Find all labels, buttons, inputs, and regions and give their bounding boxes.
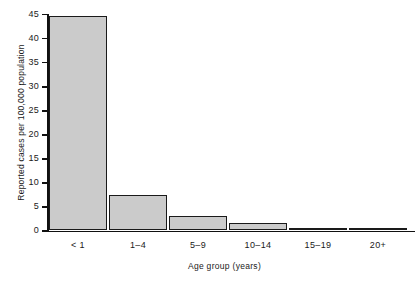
y-tick-mark <box>42 14 47 15</box>
bar <box>169 216 227 230</box>
y-tick-mark <box>42 38 47 39</box>
y-tick-label: 0 <box>34 225 39 235</box>
y-tick-mark <box>42 110 47 111</box>
y-tick-label: 30 <box>28 81 39 91</box>
bar <box>109 195 167 230</box>
bar <box>349 228 407 231</box>
y-tick-label: 35 <box>28 57 39 67</box>
y-axis-title: Reported cases per 100,000 population <box>14 0 28 245</box>
x-tick-label: 1–4 <box>130 240 146 250</box>
x-tick-label: 10–14 <box>244 240 271 250</box>
y-tick-mark <box>42 86 47 87</box>
y-tick-label: 10 <box>28 177 39 187</box>
y-tick-mark <box>42 182 47 183</box>
bar <box>229 223 287 231</box>
y-tick-label: 45 <box>28 9 39 19</box>
y-tick-label: 40 <box>28 33 39 43</box>
x-axis-line <box>47 231 415 233</box>
y-tick-mark <box>42 206 47 207</box>
y-tick-mark <box>42 134 47 135</box>
y-tick-mark <box>42 230 47 231</box>
x-tick-label: 5–9 <box>190 240 206 250</box>
x-tick-label: 20+ <box>370 240 386 250</box>
x-tick-label: < 1 <box>71 240 85 250</box>
bar <box>49 16 107 230</box>
y-tick-label: 25 <box>28 105 39 115</box>
bar <box>289 228 347 231</box>
y-tick-label: 20 <box>28 129 39 139</box>
y-tick-label: 5 <box>34 201 39 211</box>
bar-chart-figure: Reported cases per 100,000 population 05… <box>0 0 419 287</box>
x-tick-label: 15–19 <box>304 240 331 250</box>
plot-area: 051015202530354045 < 11–45–910–1415–1920… <box>47 14 402 232</box>
y-tick-mark <box>42 158 47 159</box>
x-axis-title: Age group (years) <box>47 261 402 271</box>
y-tick-mark <box>42 62 47 63</box>
y-tick-label: 15 <box>28 153 39 163</box>
